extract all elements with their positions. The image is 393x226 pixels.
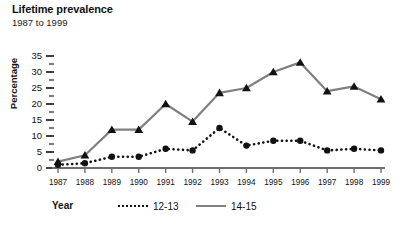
- y-tick-label: 15: [31, 114, 42, 125]
- x-tick-label: 1993: [210, 178, 229, 187]
- x-tick-label: 1997: [318, 178, 337, 187]
- y-tick-label: 30: [31, 66, 42, 77]
- chart-container: Lifetime prevalence 1987 to 1999 Percent…: [0, 0, 393, 226]
- x-tick-label: 1996: [291, 178, 310, 187]
- data-point-12-13: [82, 160, 88, 166]
- x-axis-tick-labels: 1987198819891990199119921993199419951996…: [49, 178, 391, 187]
- y-axis-tick-labels: 05101520253035: [31, 50, 42, 173]
- x-tick-label: 1991: [157, 178, 176, 187]
- data-point-12-13: [136, 154, 142, 160]
- y-tick-label: 0: [37, 162, 42, 173]
- data-point-12-13: [243, 142, 249, 148]
- x-tick-label: 1987: [49, 178, 68, 187]
- series-line-14-15: [58, 62, 381, 161]
- chart-legend: Year 12-13 14-15: [0, 196, 393, 220]
- data-point-14-15: [296, 58, 305, 66]
- x-tick-label: 1999: [372, 178, 391, 187]
- data-series-markers: [54, 58, 386, 168]
- y-tick-label: 35: [31, 50, 42, 61]
- plot-area: 05101520253035 1987198819891990199119921…: [0, 0, 393, 226]
- legend-item-12-13: 12-13: [118, 200, 179, 212]
- x-tick-label: 1988: [76, 178, 95, 187]
- legend-swatch-solid-icon: [196, 202, 226, 211]
- x-tick-label: 1989: [103, 178, 122, 187]
- data-point-12-13: [162, 146, 168, 152]
- legend-item-14-15: 14-15: [196, 200, 257, 212]
- x-tick-label: 1990: [130, 178, 149, 187]
- data-point-12-13: [351, 146, 357, 152]
- data-point-12-13: [189, 147, 195, 153]
- data-point-12-13: [270, 138, 276, 144]
- data-point-12-13: [378, 147, 384, 153]
- y-tick-label: 25: [31, 82, 42, 93]
- data-point-12-13: [109, 154, 115, 160]
- data-series-lines: [58, 62, 381, 164]
- legend-swatch-dotted-icon: [118, 202, 148, 211]
- x-tick-label: 1998: [345, 178, 364, 187]
- legend-label-12-13: 12-13: [153, 201, 179, 212]
- data-point-12-13: [324, 147, 330, 153]
- y-tick-label: 5: [37, 146, 42, 157]
- y-tick-label: 20: [31, 98, 42, 109]
- data-point-12-13: [216, 125, 222, 131]
- x-tick-label: 1994: [237, 178, 256, 187]
- legend-title: Year: [52, 200, 73, 211]
- x-tick-label: 1992: [183, 178, 202, 187]
- data-point-14-15: [161, 100, 170, 108]
- data-point-12-13: [297, 138, 303, 144]
- legend-label-14-15: 14-15: [231, 201, 257, 212]
- y-tick-label: 10: [31, 130, 42, 141]
- y-axis-ticks: [46, 56, 54, 168]
- x-tick-label: 1995: [264, 178, 283, 187]
